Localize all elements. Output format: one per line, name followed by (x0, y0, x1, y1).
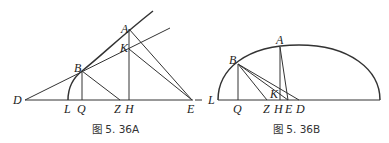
figure-5-36a: A K B D L Q Z H E 图 5. 36A (12, 11, 195, 135)
caption-5-36a: 图 5. 36A (92, 123, 140, 135)
label-h: H (273, 102, 284, 116)
label-e: E (186, 102, 195, 116)
caption-5-36b: 图 5. 36B (273, 123, 320, 135)
label-q: Q (233, 102, 242, 116)
line-a-e (280, 47, 288, 100)
figure-5-36b: A B K L Q Z H E D 图 5. 36B (195, 33, 380, 135)
label-a: A (275, 33, 284, 47)
line-k-e (129, 49, 192, 100)
label-d: D (12, 93, 22, 107)
label-a: A (120, 22, 129, 36)
label-h: H (124, 102, 135, 116)
ellipse-arc (218, 45, 380, 100)
label-l: L (207, 93, 215, 107)
label-k: K (119, 41, 129, 55)
label-q: Q (77, 102, 86, 116)
curve-l-b-a (68, 11, 153, 100)
label-l: L (63, 102, 71, 116)
line-b-d (238, 64, 299, 100)
label-b: B (74, 61, 82, 75)
label-e: E (284, 102, 293, 116)
label-z: Z (114, 102, 121, 116)
line-b-z (82, 71, 120, 100)
label-z: Z (263, 102, 270, 116)
label-b: B (229, 53, 237, 67)
diagram-canvas: A K B D L Q Z H E 图 5. 36A A B K L Q Z (0, 0, 389, 143)
label-d: D (295, 102, 305, 116)
line-a-e (129, 29, 192, 100)
label-k: K (269, 87, 279, 101)
